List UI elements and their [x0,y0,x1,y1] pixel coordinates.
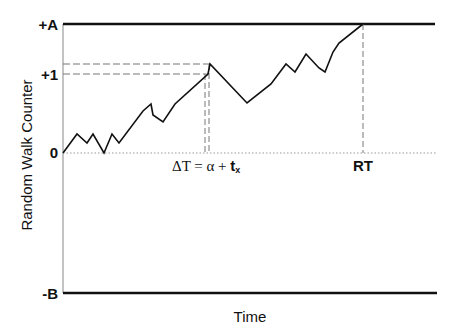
rt-label: RT [353,157,373,174]
zero-label: 0 [50,144,58,161]
y-axis-title: Random Walk Counter [18,79,35,230]
delta-t-formula: ΔT = α + tx [172,157,240,175]
upper-bound-label: +A [38,16,58,33]
random-walk-diagram: +A +1 0 -B ΔT = α + tx RT Random Walk Co… [0,0,456,326]
plus-one-label: +1 [41,66,58,83]
x-axis-title: Time [234,308,267,325]
random-walk-path [63,24,363,153]
lower-bound-label: -B [42,285,58,302]
